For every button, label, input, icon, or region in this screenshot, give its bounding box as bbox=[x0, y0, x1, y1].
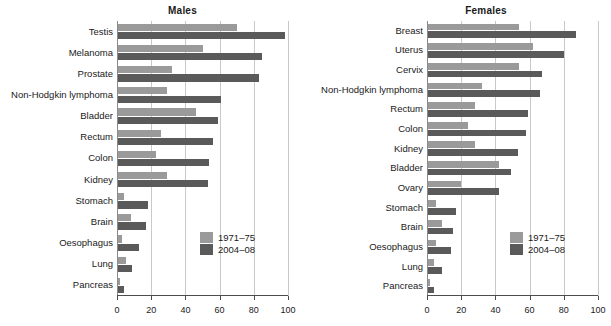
x-tick-label: 0 bbox=[114, 305, 119, 315]
bar-row: Rectum bbox=[117, 127, 288, 148]
bar-period-2004-08 bbox=[427, 287, 434, 294]
bar-row: Bladder bbox=[427, 159, 598, 179]
bar-period-2004-08 bbox=[117, 138, 213, 145]
bar-period-1971-75 bbox=[427, 259, 434, 266]
bar-period-1971-75 bbox=[427, 181, 461, 188]
bar-period-1971-75 bbox=[117, 24, 237, 31]
bar-period-1971-75 bbox=[117, 45, 203, 52]
chart-figure: Males TestisMelanomaProstateNon-Hodgkin … bbox=[0, 0, 611, 326]
category-label: Uterus bbox=[395, 45, 423, 55]
category-label: Oesophagus bbox=[59, 238, 113, 248]
plot-area-females: BreastUterusCervixNon-Hodgkin lymphomaRe… bbox=[427, 21, 598, 296]
category-label: Non-Hodgkin lymphoma bbox=[11, 90, 113, 100]
bar-period-2004-08 bbox=[427, 188, 499, 195]
legend-label: 2004–08 bbox=[528, 244, 565, 255]
legend-label: 1971–75 bbox=[218, 232, 255, 243]
x-tick-mark bbox=[495, 296, 496, 300]
x-tick-mark bbox=[288, 296, 289, 300]
x-axis-line-females bbox=[427, 295, 598, 296]
bar-period-1971-75 bbox=[427, 43, 533, 50]
x-tick-mark bbox=[117, 296, 118, 300]
category-label: Breast bbox=[396, 26, 423, 36]
category-label: Rectum bbox=[80, 132, 113, 142]
x-tick-mark bbox=[461, 296, 462, 300]
bar-period-1971-75 bbox=[117, 151, 156, 158]
bar-period-2004-08 bbox=[427, 169, 511, 176]
bar-period-1971-75 bbox=[427, 24, 519, 31]
bar-row: Bladder bbox=[117, 106, 288, 127]
category-label: Brain bbox=[91, 217, 113, 227]
category-label: Testis bbox=[89, 27, 113, 37]
bar-row: Melanoma bbox=[117, 42, 288, 63]
bar-period-1971-75 bbox=[117, 172, 167, 179]
bar-period-2004-08 bbox=[427, 247, 451, 254]
category-label: Bladder bbox=[80, 111, 113, 121]
x-tick-label: 60 bbox=[525, 305, 535, 315]
bar-period-1971-75 bbox=[117, 257, 126, 264]
bar-period-2004-08 bbox=[117, 74, 259, 81]
bar-period-2004-08 bbox=[427, 228, 453, 235]
bar-period-2004-08 bbox=[427, 51, 564, 58]
x-tick-mark bbox=[564, 296, 565, 300]
panel-females: Females BreastUterusCervixNon-Hodgkin ly… bbox=[306, 0, 611, 326]
x-tick-label: 60 bbox=[215, 305, 225, 315]
legend-label: 2004–08 bbox=[218, 244, 255, 255]
category-label: Non-Hodgkin lymphoma bbox=[321, 85, 423, 95]
bar-period-1971-75 bbox=[117, 130, 161, 137]
bar-period-1971-75 bbox=[427, 63, 519, 70]
bar-row: Rectum bbox=[427, 100, 598, 120]
bar-row: Colon bbox=[117, 148, 288, 169]
category-label: Oesophagus bbox=[369, 242, 423, 252]
category-label: Prostate bbox=[78, 69, 113, 79]
bar-period-2004-08 bbox=[427, 208, 456, 215]
bar-row: Colon bbox=[427, 119, 598, 139]
x-tick-label: 20 bbox=[146, 305, 156, 315]
bar-row: Pancreas bbox=[117, 275, 288, 296]
x-tick-label: 80 bbox=[249, 305, 259, 315]
bar-period-2004-08 bbox=[117, 265, 132, 272]
x-tick-label: 0 bbox=[424, 305, 429, 315]
legend-label: 1971–75 bbox=[528, 232, 565, 243]
bar-row: Kidney bbox=[427, 139, 598, 159]
category-label: Lung bbox=[92, 259, 113, 269]
x-tick-label: 40 bbox=[180, 305, 190, 315]
bar-row: Prostate bbox=[117, 63, 288, 84]
panel-females-title: Females bbox=[306, 5, 611, 16]
bar-row: Kidney bbox=[117, 169, 288, 190]
x-tick-label: 100 bbox=[280, 305, 295, 315]
bar-period-2004-08 bbox=[117, 180, 208, 187]
category-label: Stomach bbox=[76, 196, 114, 206]
bar-row: Brain bbox=[117, 211, 288, 232]
x-tick-mark bbox=[530, 296, 531, 300]
category-label: Bladder bbox=[390, 163, 423, 173]
bar-period-1971-75 bbox=[427, 83, 482, 90]
bar-period-1971-75 bbox=[427, 141, 475, 148]
bar-row: Non-Hodgkin lymphoma bbox=[117, 84, 288, 105]
category-label: Pancreas bbox=[73, 280, 113, 290]
legend-swatch bbox=[200, 244, 213, 255]
bar-period-2004-08 bbox=[427, 149, 518, 156]
bar-period-2004-08 bbox=[427, 31, 576, 38]
bar-period-2004-08 bbox=[117, 96, 221, 103]
bar-period-2004-08 bbox=[117, 117, 218, 124]
bar-period-2004-08 bbox=[117, 53, 262, 60]
legend-swatch bbox=[200, 232, 213, 243]
legend-swatch bbox=[510, 244, 523, 255]
gridline bbox=[288, 21, 289, 296]
category-label: Rectum bbox=[390, 104, 423, 114]
category-label: Cervix bbox=[396, 65, 423, 75]
category-label: Colon bbox=[398, 124, 423, 134]
bar-row: Uterus bbox=[427, 41, 598, 61]
bar-period-1971-75 bbox=[427, 200, 436, 207]
bar-row: Stomach bbox=[427, 198, 598, 218]
bar-row: Breast bbox=[427, 21, 598, 41]
bar-period-1971-75 bbox=[427, 161, 499, 168]
bar-row: Cervix bbox=[427, 60, 598, 80]
legend-swatch bbox=[510, 232, 523, 243]
bar-period-2004-08 bbox=[117, 159, 209, 166]
category-label: Melanoma bbox=[69, 48, 113, 58]
x-tick-mark bbox=[598, 296, 599, 300]
category-label: Kidney bbox=[84, 175, 113, 185]
bar-period-2004-08 bbox=[427, 130, 526, 137]
y-axis-line-males bbox=[117, 21, 118, 296]
